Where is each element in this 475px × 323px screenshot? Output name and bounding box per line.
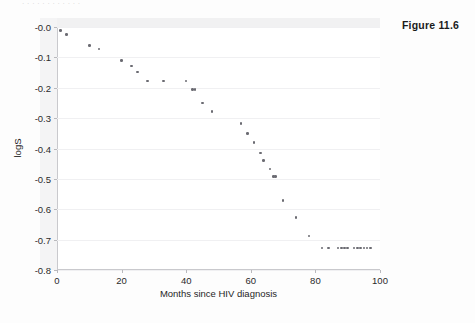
figure-page: · · · · · · · · · · · · Figure 11.6 -0.0…	[0, 0, 475, 323]
data-point	[201, 102, 204, 105]
plot-margin-shade-top	[57, 18, 380, 27]
data-point	[65, 33, 68, 36]
y-tick-label: -0.8	[35, 265, 51, 276]
data-point	[194, 88, 197, 91]
y-tick-mark	[54, 240, 57, 241]
gridline-y	[57, 240, 380, 241]
y-tick-label: -0.4	[35, 143, 51, 154]
data-point	[130, 65, 133, 68]
y-tick-label: -0.6	[35, 204, 51, 215]
y-tick-label: -0.1	[35, 52, 51, 63]
gridline-y	[57, 209, 380, 210]
y-tick-mark	[54, 118, 57, 119]
y-tick-mark	[54, 209, 57, 210]
gridline-y	[57, 88, 380, 89]
gridline-y	[57, 270, 380, 271]
y-tick-mark	[54, 57, 57, 58]
y-tick-label: -0.3	[35, 113, 51, 124]
gridline-y	[57, 57, 380, 58]
x-tick-label: 60	[246, 275, 257, 286]
data-point	[246, 132, 249, 135]
y-tick-label: -0.5	[35, 173, 51, 184]
y-tick-label: -0.2	[35, 82, 51, 93]
x-tick-mark	[251, 270, 252, 273]
data-point	[274, 175, 277, 178]
x-tick-label: 0	[54, 275, 59, 286]
x-tick-label: 80	[310, 275, 321, 286]
data-point	[88, 44, 91, 47]
gridline-y	[57, 179, 380, 180]
x-tick-mark	[186, 270, 187, 273]
data-point	[120, 59, 123, 62]
x-tick-label: 40	[181, 275, 192, 286]
x-tick-mark	[380, 270, 381, 273]
x-tick-label: 100	[372, 275, 388, 286]
y-axis-label: logS	[12, 138, 23, 157]
y-tick-label: -0.7	[35, 234, 51, 245]
y-tick-mark	[54, 149, 57, 150]
y-tick-mark	[54, 27, 57, 28]
x-axis-label: Months since HIV diagnosis	[57, 288, 380, 299]
data-point	[59, 29, 62, 32]
x-tick-label: 20	[116, 275, 127, 286]
gridline-y	[57, 118, 380, 119]
y-tick-label: -0.0	[35, 22, 51, 33]
x-tick-mark	[315, 270, 316, 273]
x-tick-mark	[122, 270, 123, 273]
y-tick-mark	[54, 88, 57, 89]
data-point	[262, 159, 265, 162]
x-tick-mark	[57, 270, 58, 273]
gridline-y	[57, 27, 380, 28]
gridline-y	[57, 149, 380, 150]
scatter-plot: -0.0-0.1-0.2-0.3-0.4-0.5-0.6-0.7-0.8 020…	[0, 0, 475, 323]
y-tick-mark	[54, 179, 57, 180]
